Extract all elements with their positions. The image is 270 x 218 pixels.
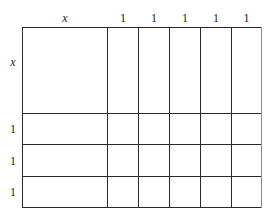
- grid-row-divider: [22, 113, 262, 114]
- grid-row-divider: [22, 144, 262, 145]
- column-header-x: x: [22, 12, 108, 24]
- column-header-1: 1: [200, 12, 232, 24]
- row-header-1: 1: [6, 186, 20, 198]
- grid-left-border: [22, 27, 23, 208]
- grid-right-border: [261, 27, 262, 208]
- grid-top-border: [22, 27, 262, 28]
- grid-col-divider: [107, 27, 108, 208]
- row-header-1: 1: [6, 123, 20, 135]
- grid-col-divider: [169, 27, 170, 208]
- grid-row-divider: [22, 176, 262, 177]
- grid-col-divider: [231, 27, 232, 208]
- column-header-1: 1: [107, 12, 139, 24]
- column-header-1: 1: [231, 12, 262, 24]
- grid-col-divider: [138, 27, 139, 208]
- column-header-1: 1: [138, 12, 170, 24]
- row-header-x: x: [6, 56, 20, 68]
- row-header-1: 1: [6, 155, 20, 167]
- grid-col-divider: [200, 27, 201, 208]
- grid-bottom-border: [22, 207, 262, 208]
- column-header-1: 1: [169, 12, 201, 24]
